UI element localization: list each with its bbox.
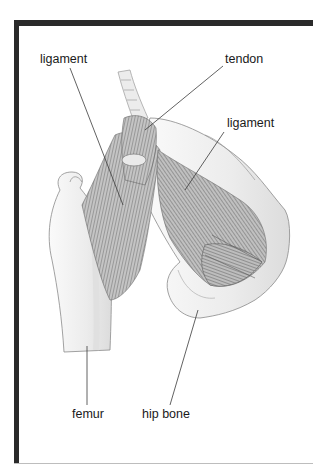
leader-hip-bone: [170, 310, 198, 405]
label-ligament-right: ligament: [227, 116, 274, 130]
label-ligament-left: ligament: [40, 52, 87, 66]
hip-joint-illustration: [0, 0, 313, 466]
tendon-cord: [118, 70, 148, 122]
label-hip-bone: hip bone: [142, 407, 190, 421]
leader-tendon: [145, 66, 223, 130]
label-tendon: tendon: [225, 52, 263, 66]
label-femur: femur: [72, 407, 104, 421]
